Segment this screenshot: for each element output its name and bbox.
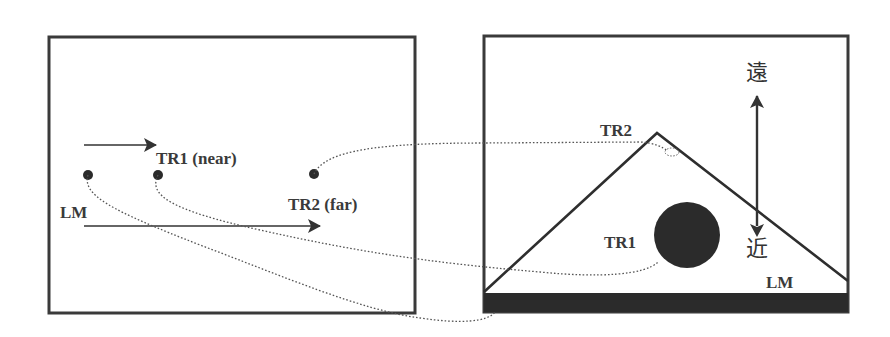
tr2-far-label: TR2 (far) xyxy=(288,195,357,214)
tr1-ball xyxy=(654,202,720,268)
right-panel: 遠 近 TR2 TR1 LM xyxy=(484,36,848,312)
tr1-correspondence-line xyxy=(156,175,658,275)
tr1-near-label: TR1 (near) xyxy=(156,149,237,168)
near-label: 近 xyxy=(746,236,768,261)
lm-label-right: LM xyxy=(766,273,793,292)
tr2-marker xyxy=(665,148,679,156)
lm-label-left: LM xyxy=(60,203,87,222)
diagram-canvas: TR1 (near) TR2 (far) LM 遠 近 TR2 TR1 LM xyxy=(0,0,890,337)
tr2-correspondence-line xyxy=(314,142,668,174)
right-panel-frame xyxy=(484,36,848,312)
tr2-label-right: TR2 xyxy=(600,121,632,140)
tr1-label-right: TR1 xyxy=(604,233,636,252)
far-label: 遠 xyxy=(746,60,768,85)
left-panel: TR1 (near) TR2 (far) LM xyxy=(49,37,415,313)
left-panel-frame xyxy=(49,37,415,313)
ground-base xyxy=(484,293,848,312)
